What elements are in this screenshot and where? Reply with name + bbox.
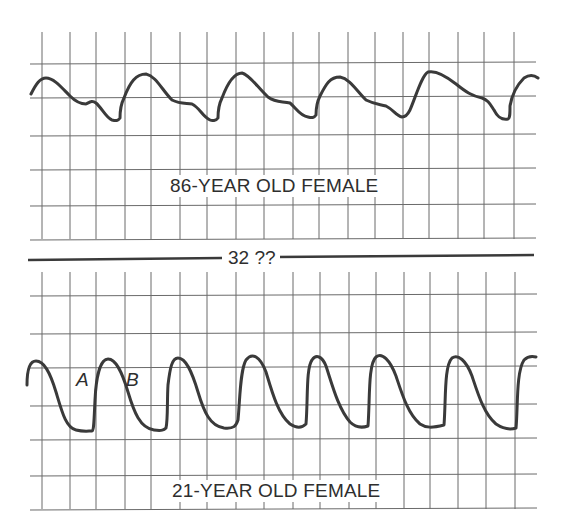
divider-line-right <box>276 255 534 257</box>
divider-line-left <box>28 258 222 260</box>
marker-a: A <box>76 369 89 391</box>
top-panel-grid <box>30 32 536 240</box>
bottom-panel-grid <box>30 272 537 510</box>
divider-label: 32 ?? <box>224 247 280 269</box>
pulse-wave-diagram <box>0 0 563 531</box>
top-panel-label: 86-YEAR OLD FEMALE <box>168 175 380 197</box>
marker-b: B <box>126 369 139 391</box>
bottom-panel-label: 21-YEAR OLD FEMALE <box>170 480 382 502</box>
